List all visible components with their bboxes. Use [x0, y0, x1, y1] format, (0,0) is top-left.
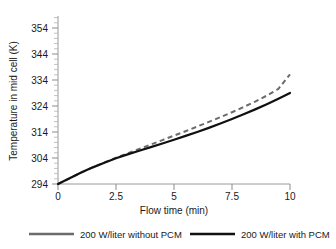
y-tick-label-344: 344 [31, 49, 48, 60]
y-axis-minor-ticks [54, 18, 58, 179]
x-axis-ticks [58, 184, 290, 190]
y-tick-label-314: 314 [31, 127, 48, 138]
y-tick-label-354: 354 [31, 23, 48, 34]
y-tick-label-294: 294 [31, 179, 48, 190]
x-tick-label-2.5: 2.5 [109, 191, 123, 202]
x-tick-label-0: 0 [55, 191, 61, 202]
x-axis-title: Flow time (min) [140, 205, 208, 216]
chart-figure: 294 304 314 324 334 344 354 0 2.5 5 7.5 … [0, 0, 336, 249]
chart-legend: 200 W/liter without PCM 200 W/liter with… [29, 229, 330, 240]
y-axis-title: Temperature in mid cell (K) [8, 41, 19, 160]
legend-label-without-pcm: 200 W/liter without PCM [80, 229, 182, 240]
legend-label-with-pcm: 200 W/liter with PCM [241, 229, 330, 240]
y-tick-label-304: 304 [31, 153, 48, 164]
x-tick-label-7.5: 7.5 [225, 191, 239, 202]
x-tick-label-5: 5 [171, 191, 177, 202]
line-chart: 294 304 314 324 334 344 354 0 2.5 5 7.5 … [0, 0, 336, 249]
x-tick-label-10: 10 [284, 191, 296, 202]
y-tick-label-324: 324 [31, 101, 48, 112]
y-tick-label-334: 334 [31, 75, 48, 86]
y-axis-ticks [52, 28, 58, 184]
